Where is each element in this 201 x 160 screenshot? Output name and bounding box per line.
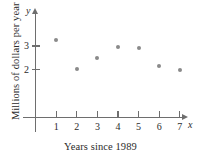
x-axis-tick-label: 7 <box>173 122 187 132</box>
data-point <box>116 45 120 49</box>
y-axis-arrow-icon <box>32 8 38 14</box>
x-axis-tick <box>56 111 57 118</box>
data-point <box>75 67 79 71</box>
y-axis-tick-label: 2 <box>17 65 29 75</box>
x-axis-tick <box>76 111 77 118</box>
x-axis-tick-label: 5 <box>132 122 146 132</box>
x-axis-tick-label: 6 <box>152 122 166 132</box>
y-axis-variable-label: y <box>26 6 30 16</box>
x-axis-tick <box>159 111 160 118</box>
x-axis-variable-label: x <box>188 120 192 130</box>
x-axis-tick <box>179 111 180 118</box>
data-point <box>157 64 161 68</box>
x-axis-tick <box>97 111 98 118</box>
x-axis-tick <box>117 111 118 118</box>
data-point <box>178 68 182 72</box>
x-axis-title: Years since 1989 <box>0 142 201 153</box>
x-axis-tick <box>138 111 139 118</box>
x-axis-tick-label: 4 <box>111 122 125 132</box>
data-point <box>54 38 58 42</box>
data-point <box>95 56 99 60</box>
y-axis-tick-label: 3 <box>17 41 29 51</box>
y-axis-line <box>35 14 36 132</box>
scatter-plot-figure: Millions of dollars per year Years since… <box>0 0 201 160</box>
x-axis-line <box>23 117 184 118</box>
data-point <box>137 46 141 50</box>
x-axis-tick-label: 3 <box>90 122 104 132</box>
y-axis-tick <box>32 69 40 70</box>
x-axis-tick-label: 2 <box>70 122 84 132</box>
x-axis-tick-label: 1 <box>49 122 63 132</box>
y-axis-tick <box>32 45 40 46</box>
y-axis-title: Millions of dollars per year <box>11 0 22 124</box>
